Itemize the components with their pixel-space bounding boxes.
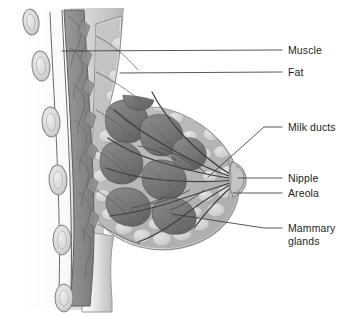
label-mammary-glands: Mammary glands [288,222,335,247]
figure-caption [22,305,322,317]
label-fat: Fat [288,66,303,79]
label-areola: Areola [288,187,319,200]
label-milk-ducts: Milk ducts [288,121,336,134]
label-nipple: Nipple [288,172,318,185]
label-muscle: Muscle [288,44,322,57]
figure-canvas: MuscleFatMilk ductsNippleAreolaMammary g… [0,0,345,317]
leader-fat [120,72,282,73]
